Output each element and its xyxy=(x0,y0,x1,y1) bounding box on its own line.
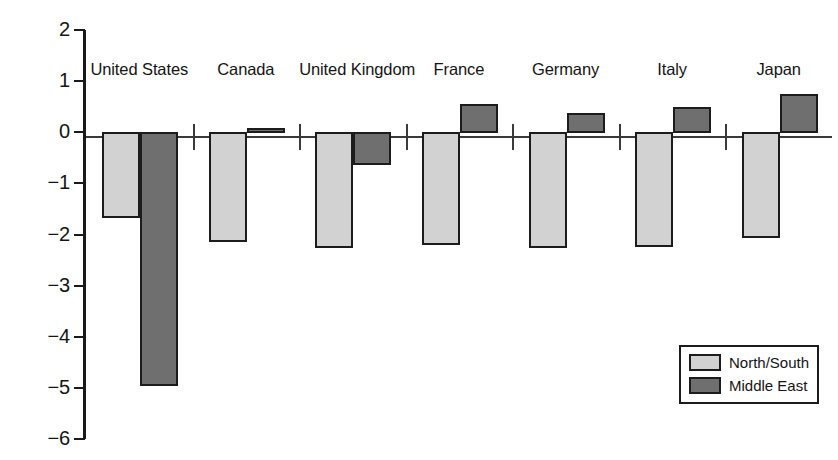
bar xyxy=(422,132,460,244)
category-label: United States xyxy=(86,60,193,78)
bar xyxy=(567,113,605,133)
category-label: Italy xyxy=(619,60,726,78)
group-separator-tick xyxy=(725,124,727,150)
bar xyxy=(140,132,178,386)
y-axis-tick xyxy=(74,387,85,389)
group-separator-tick xyxy=(512,124,514,150)
group-separator-tick xyxy=(619,124,621,150)
y-axis-tick xyxy=(74,182,85,184)
legend-label-north-south: North/South xyxy=(729,355,809,371)
y-axis-tick xyxy=(74,285,85,287)
bar xyxy=(635,132,673,247)
y-axis-tick-label: −1 xyxy=(24,172,70,192)
group-separator-tick xyxy=(193,124,195,150)
legend-swatch-north-south xyxy=(689,354,721,371)
bar-chart: 210−1−2−3−4−5−6 United StatesCanadaUnite… xyxy=(0,0,838,460)
y-axis-tick-label: 1 xyxy=(24,70,70,90)
bar xyxy=(102,132,140,217)
category-label: Germany xyxy=(512,60,619,78)
y-axis-tick-label: −4 xyxy=(24,326,70,346)
category-label: Canada xyxy=(193,60,300,78)
bar xyxy=(247,128,285,133)
bar xyxy=(209,132,247,241)
y-axis-tick xyxy=(74,131,85,133)
bar xyxy=(460,104,498,133)
y-axis-tick-label: −2 xyxy=(24,224,70,244)
y-axis-tick xyxy=(74,336,85,338)
legend-item-north-south: North/South xyxy=(689,354,809,371)
group-separator-tick xyxy=(406,124,408,150)
group-separator-tick xyxy=(299,124,301,150)
category-label: Japan xyxy=(725,60,832,78)
y-axis-tick xyxy=(74,29,85,31)
legend-label-middle-east: Middle East xyxy=(729,378,807,394)
category-label: France xyxy=(406,60,513,78)
y-axis-tick xyxy=(74,80,85,82)
bar xyxy=(780,94,818,133)
y-axis-tick-label: 2 xyxy=(24,19,70,39)
bar xyxy=(673,107,711,134)
y-axis-tick-label: 0 xyxy=(24,121,70,141)
y-axis-tick xyxy=(74,438,85,440)
bar xyxy=(742,132,780,238)
y-axis-tick xyxy=(74,234,85,236)
bar xyxy=(353,132,391,165)
y-axis-tick-label: −6 xyxy=(24,428,70,448)
legend-swatch-middle-east xyxy=(689,377,721,394)
y-axis-tick-label: −5 xyxy=(24,377,70,397)
bar xyxy=(315,132,353,248)
legend-item-middle-east: Middle East xyxy=(689,377,809,394)
chart-legend: North/South Middle East xyxy=(679,345,819,404)
category-label: United Kingdom xyxy=(299,60,406,78)
y-axis-tick-label: −3 xyxy=(24,275,70,295)
bar xyxy=(529,132,567,248)
